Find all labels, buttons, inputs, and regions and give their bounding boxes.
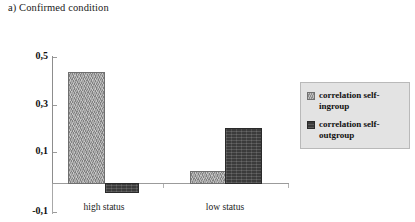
chart-legend: correlation self-ingroup correlation sel…: [300, 82, 410, 149]
x-tick-label-high-status: high status: [59, 202, 149, 212]
legend-swatch-outgroup-icon: [307, 121, 315, 129]
bar-low-status-outgroup: [225, 128, 262, 184]
bar-high-status-outgroup: [105, 183, 139, 193]
x-tick-mark: [288, 184, 289, 188]
legend-item-ingroup: correlation self-ingroup: [307, 90, 404, 112]
legend-item-outgroup: correlation self-outgroup: [307, 119, 404, 141]
y-tick-label: -0,1: [18, 205, 48, 216]
chart-figure: a) Confirmed condition 0,5 0,3 0,1 -0,1 …: [0, 0, 415, 222]
y-tick-mark: [53, 152, 57, 153]
bar-low-status-ingroup: [190, 171, 226, 184]
plot-area: 0,5 0,3 0,1 -0,1 high status low status …: [0, 0, 415, 222]
legend-label-outgroup: correlation self-outgroup: [319, 119, 404, 141]
bar-high-status-ingroup: [68, 72, 105, 184]
y-tick-label: 0,1: [18, 145, 48, 156]
x-tick-label-low-status: low status: [180, 202, 270, 212]
x-tick-mark: [163, 184, 164, 188]
y-tick-label: 0,5: [18, 50, 48, 61]
y-axis-line: [52, 56, 53, 183]
legend-swatch-ingroup-icon: [307, 92, 315, 100]
y-tick-mark: [53, 105, 57, 106]
y-tick-mark: [53, 212, 57, 213]
y-tick-label: 0,3: [18, 98, 48, 109]
y-tick-mark: [53, 57, 57, 58]
y-axis-line-lower: [52, 183, 53, 214]
legend-label-ingroup: correlation self-ingroup: [319, 90, 404, 112]
